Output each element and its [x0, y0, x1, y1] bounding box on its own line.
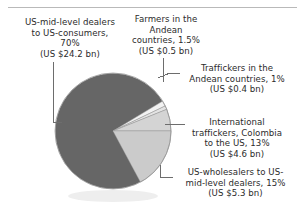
pie-label-us-mid-level-dealers-to-consumers: US-mid-level dealers to US-consumers, 70… [2, 17, 138, 59]
pie-drop-shadow [68, 190, 158, 202]
pie-label-farmers-andean-countries: Farmers in the Andean countries, 1.5% (U… [120, 14, 212, 56]
pie-chart-figure: US-mid-level dealers to US-consumers, 70… [0, 0, 305, 219]
pie-label-international-traffickers: International traffickers, Colombia to t… [172, 117, 302, 159]
pie-label-us-wholesalers: US-wholesalers to US- mid-level dealers,… [168, 167, 303, 199]
pie-label-traffickers-andean-countries: Traffickers in the Andean countries, 1% … [172, 63, 302, 95]
